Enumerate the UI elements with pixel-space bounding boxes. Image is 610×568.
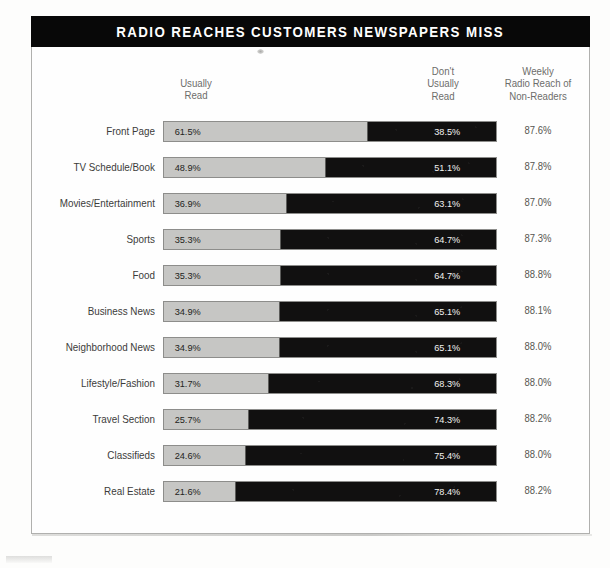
row-category-label: Business News [24,305,155,318]
scan-speck-artifact [257,49,264,54]
stacked-bar: 34.9%65.1% [163,301,497,322]
bar-segment-usually-read: 48.9% [164,158,326,177]
bar-segment-usually-read: 35.3% [164,266,281,285]
bar-value-dont-usually-read: 38.5% [434,126,494,137]
row-category-label: Sports [24,233,155,246]
bar-value-usually-read: 34.9% [165,306,200,317]
row-weekly-radio-reach-value: 87.0% [503,197,574,208]
page-title: RADIO REACHES CUSTOMERS NEWSPAPERS MISS [117,24,505,40]
bar-value-usually-read: 35.3% [165,234,200,245]
chart-row: Travel Section25.7%74.3%88.2% [0,409,610,445]
bar-value-usually-read: 21.6% [165,486,200,497]
bar-value-dont-usually-read: 64.7% [434,270,494,281]
row-weekly-radio-reach-value: 87.6% [503,125,574,136]
bar-value-dont-usually-read: 65.1% [434,342,494,353]
row-category-label: Real Estate [24,485,155,498]
stacked-bar: 25.7%74.3% [163,409,497,430]
column-header-weekly-radio-reach: WeeklyRadio Reach ofNon-Readers [495,66,581,103]
bar-segment-dont-usually-read: 68.3% [269,374,496,393]
bar-segment-dont-usually-read: 38.5% [368,122,496,141]
chart-row: Real Estate21.6%78.4%88.2% [0,481,610,517]
row-category-label: Movies/Entertainment [24,197,155,210]
column-headers: UsuallyRead Don'tUsuallyRead WeeklyRadio… [0,64,610,112]
chart-row: Food35.3%64.7%88.8% [0,265,610,301]
bar-value-usually-read: 24.6% [165,450,200,461]
row-weekly-radio-reach-value: 88.0% [503,341,574,352]
bar-value-dont-usually-read: 78.4% [434,486,494,497]
bar-value-dont-usually-read: 51.1% [434,162,494,173]
frame-shadow [32,534,592,536]
bar-segment-usually-read: 35.3% [164,230,281,249]
stacked-bar: 34.9%65.1% [163,337,497,358]
column-header-usually-read: UsuallyRead [159,78,233,103]
row-category-label: TV Schedule/Book [24,161,155,174]
row-category-label: Food [24,269,155,282]
chart-row: Front Page61.5%38.5%87.6% [0,121,610,157]
chart-row: Classifieds24.6%75.4%88.0% [0,445,610,481]
column-header-dont-usually-read: Don'tUsuallyRead [406,66,480,103]
bar-segment-dont-usually-read: 78.4% [236,482,496,501]
stacked-bar: 48.9%51.1% [163,157,497,178]
stacked-bar: 35.3%64.7% [163,265,497,286]
bar-value-usually-read: 25.7% [165,414,200,425]
bar-segment-usually-read: 34.9% [164,338,280,357]
bar-segment-usually-read: 25.7% [164,410,249,429]
bar-segment-usually-read: 31.7% [164,374,269,393]
bar-segment-dont-usually-read: 65.1% [280,302,496,321]
bar-segment-usually-read: 24.6% [164,446,246,465]
row-weekly-radio-reach-value: 88.8% [503,269,574,280]
row-weekly-radio-reach-value: 88.2% [503,413,574,424]
bar-value-usually-read: 35.3% [165,270,200,281]
stacked-bar: 61.5%38.5% [163,121,497,142]
chart-row: Movies/Entertainment36.9%63.1%87.0% [0,193,610,229]
bar-segment-dont-usually-read: 75.4% [246,446,496,465]
chart-rows: Front Page61.5%38.5%87.6%TV Schedule/Boo… [0,121,610,517]
bar-segment-usually-read: 21.6% [164,482,236,501]
row-weekly-radio-reach-value: 87.3% [503,233,574,244]
row-category-label: Travel Section [24,413,155,426]
bar-segment-usually-read: 61.5% [164,122,368,141]
chart-row: TV Schedule/Book48.9%51.1%87.8% [0,157,610,193]
bar-segment-dont-usually-read: 74.3% [249,410,496,429]
bar-value-dont-usually-read: 65.1% [434,306,494,317]
row-category-label: Neighborhood News [24,341,155,354]
bar-value-dont-usually-read: 75.4% [434,450,494,461]
bar-value-usually-read: 31.7% [165,378,200,389]
bar-segment-dont-usually-read: 65.1% [280,338,496,357]
row-weekly-radio-reach-value: 88.0% [503,377,574,388]
chart-row: Business News34.9%65.1%88.1% [0,301,610,337]
bar-segment-dont-usually-read: 51.1% [326,158,496,177]
bar-value-dont-usually-read: 64.7% [434,234,494,245]
row-weekly-radio-reach-value: 88.1% [503,305,574,316]
bar-value-dont-usually-read: 74.3% [434,414,494,425]
bar-value-usually-read: 36.9% [165,198,200,209]
row-category-label: Lifestyle/Fashion [24,377,155,390]
row-weekly-radio-reach-value: 87.8% [503,161,574,172]
bar-segment-usually-read: 36.9% [164,194,287,213]
bar-value-usually-read: 61.5% [165,126,200,137]
bar-value-usually-read: 34.9% [165,342,200,353]
chart-row: Neighborhood News34.9%65.1%88.0% [0,337,610,373]
row-category-label: Front Page [24,125,155,138]
stacked-bar: 21.6%78.4% [163,481,497,502]
bar-value-dont-usually-read: 68.3% [434,378,494,389]
bar-segment-usually-read: 34.9% [164,302,280,321]
chart-title-bar: RADIO REACHES CUSTOMERS NEWSPAPERS MISS [31,16,590,47]
row-category-label: Classifieds [24,449,155,462]
stacked-bar: 31.7%68.3% [163,373,497,394]
stacked-bar: 36.9%63.1% [163,193,497,214]
page-edge-artifact [6,556,52,563]
chart-page: RADIO REACHES CUSTOMERS NEWSPAPERS MISS … [0,0,610,568]
bar-segment-dont-usually-read: 64.7% [281,266,496,285]
stacked-bar: 35.3%64.7% [163,229,497,250]
chart-row: Sports35.3%64.7%87.3% [0,229,610,265]
bar-segment-dont-usually-read: 63.1% [287,194,497,213]
row-weekly-radio-reach-value: 88.0% [503,449,574,460]
chart-row: Lifestyle/Fashion31.7%68.3%88.0% [0,373,610,409]
bar-value-dont-usually-read: 63.1% [434,198,494,209]
bar-segment-dont-usually-read: 64.7% [281,230,496,249]
bar-value-usually-read: 48.9% [165,162,200,173]
row-weekly-radio-reach-value: 88.2% [503,485,574,496]
stacked-bar: 24.6%75.4% [163,445,497,466]
